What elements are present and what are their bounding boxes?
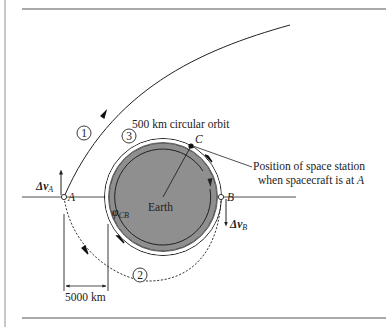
station-annotation-line2: when spacecraft is at A <box>258 174 365 187</box>
orbital-rendezvous-diagram: 1 3 2 500 km circular orbit C A B Earth … <box>0 0 386 327</box>
svg-text:2: 2 <box>137 269 143 281</box>
orbit-label: 500 km circular orbit <box>132 118 230 130</box>
delta-v-B-label: ΔvB <box>229 218 247 232</box>
earth-label: Earth <box>148 201 173 213</box>
trajectory-1-label: 1 <box>77 126 91 140</box>
svg-text:1: 1 <box>81 127 87 139</box>
space-station-point-C <box>188 143 193 148</box>
point-B-marker <box>218 194 223 199</box>
point-A-marker <box>61 194 66 199</box>
trajectory-2-label: 2 <box>133 268 147 282</box>
delta-v-A-label: ΔvA <box>35 180 53 194</box>
distance-label: 5000 km <box>65 291 106 303</box>
point-B-label: B <box>227 191 234 203</box>
trajectory-1-arrow-icon <box>101 111 106 118</box>
point-A-label: A <box>67 191 76 203</box>
station-annotation-line1: Position of space station <box>253 160 365 173</box>
trajectory-3-label: 3 <box>122 129 136 143</box>
page-border <box>4 0 6 327</box>
point-C-label: C <box>195 133 203 145</box>
svg-text:3: 3 <box>126 130 132 142</box>
trajectory-2-arrow-icon <box>82 246 88 254</box>
